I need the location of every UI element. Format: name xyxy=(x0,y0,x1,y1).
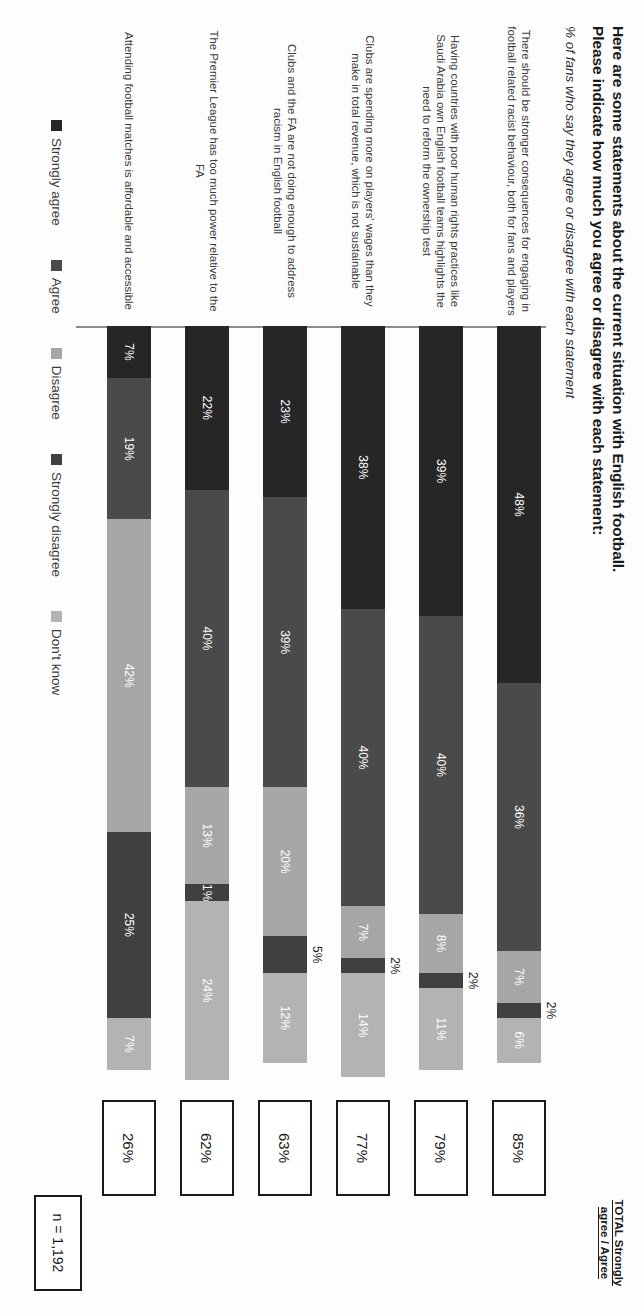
page-title-line-2: Please indicate how much you agree or di… xyxy=(588,26,608,786)
row-total-value: 77% xyxy=(355,1133,372,1163)
total-column-header-line-2: agree / Agree xyxy=(598,1207,611,1279)
row-category-label: Clubs and the FA are not doing enough to… xyxy=(258,26,312,326)
legend-item[interactable]: Agree xyxy=(49,260,64,314)
bar-segment-value: 24% xyxy=(200,979,214,1003)
legend-item[interactable]: Strongly disagree xyxy=(49,454,64,577)
bar-segment-value: 40% xyxy=(434,753,448,777)
bar-segment-value: 38% xyxy=(356,455,370,479)
bar-segment-value: 14% xyxy=(356,1013,370,1037)
row-total-box: 77% xyxy=(336,1100,390,1196)
bar-segment: 5% xyxy=(263,936,307,973)
bar-segment: 48% xyxy=(497,326,541,683)
bar-segment: 22% xyxy=(185,326,229,490)
total-column-header: TOTAL Strongly agree / Agree xyxy=(597,1195,626,1291)
bar-segment-value: 1% xyxy=(200,884,214,901)
bar-segment: 40% xyxy=(341,609,385,907)
legend-label: Strongly agree xyxy=(49,138,64,226)
legend-item[interactable]: Don't know xyxy=(49,611,64,695)
row-total-value: 62% xyxy=(199,1133,216,1163)
bar-segment-value: 12% xyxy=(278,1006,292,1030)
bar-segment: 2% xyxy=(497,1003,541,1018)
legend-item[interactable]: Disagree xyxy=(49,348,64,420)
bar-segment: 20% xyxy=(263,787,307,936)
sample-size-box: n = 1,192 xyxy=(34,1195,82,1291)
bar-segment: 2% xyxy=(419,973,463,988)
bar-segment-value: 7% xyxy=(122,343,136,360)
bar-segment-value: 19% xyxy=(122,437,136,461)
chart-row: Having countries with poor human rights … xyxy=(414,26,468,1196)
row-category-label: Attending football matches is affordable… xyxy=(102,26,156,326)
legend-swatch-icon xyxy=(51,348,62,359)
row-total-box: 63% xyxy=(258,1100,312,1196)
bar-segment: 7% xyxy=(341,906,385,958)
legend-swatch-icon xyxy=(51,260,62,271)
page-title-line-1: Here are some statements about the curre… xyxy=(608,26,628,786)
legend-label: Strongly disagree xyxy=(49,472,64,577)
bar-segment-value: 7% xyxy=(356,924,370,941)
bar-segment-value: 25% xyxy=(122,913,136,937)
bar-segment: 19% xyxy=(107,378,151,519)
chart-legend: Strongly agreeAgreeDisagreeStrongly disa… xyxy=(49,120,64,695)
legend-item[interactable]: Strongly agree xyxy=(49,120,64,226)
bar-segment: 8% xyxy=(419,914,463,974)
stacked-bar: 22%40%13%1%24% xyxy=(185,326,229,1070)
row-total-box: 62% xyxy=(180,1100,234,1196)
bar-segment-value: 2% xyxy=(388,957,402,974)
bar-segment-value: 13% xyxy=(200,824,214,848)
row-category-label: Clubs are spending more on players' wage… xyxy=(336,26,390,326)
bar-segment: 2% xyxy=(341,958,385,973)
row-total-value: 26% xyxy=(121,1133,138,1163)
bar-segment: 39% xyxy=(263,497,307,787)
bar-segment: 1% xyxy=(185,884,229,901)
legend-label: Agree xyxy=(49,278,64,314)
bar-segment-value: 42% xyxy=(122,664,136,688)
chart-slide: Here are some statements about the curre… xyxy=(0,0,642,1313)
bar-segment-value: 11% xyxy=(434,1017,448,1040)
row-total-box: 26% xyxy=(102,1100,156,1196)
bar-segment-value: 40% xyxy=(200,626,214,650)
page-title: Here are some statements about the curre… xyxy=(588,26,628,786)
legend-swatch-icon xyxy=(51,454,62,465)
bar-segment: 25% xyxy=(107,832,151,1018)
bar-segment: 11% xyxy=(419,988,463,1070)
bar-segment: 7% xyxy=(107,1018,151,1070)
stacked-bar: 39%40%8%2%11% xyxy=(419,326,463,1070)
header-block: Here are some statements about the curre… xyxy=(563,26,628,786)
bar-segment: 12% xyxy=(263,973,307,1062)
bar-segment-value: 48% xyxy=(512,493,526,517)
chart-row: Attending football matches is affordable… xyxy=(102,26,156,1196)
bar-segment-value: 8% xyxy=(434,935,448,952)
legend-swatch-icon xyxy=(51,120,62,131)
sample-size-label: n = 1,192 xyxy=(50,1214,66,1273)
bar-segment-value: 2% xyxy=(466,972,480,989)
bar-segment-value: 20% xyxy=(278,850,292,874)
bar-segment-value: 23% xyxy=(278,400,292,424)
bar-segment: 7% xyxy=(107,326,151,378)
bar-segment: 23% xyxy=(263,326,307,497)
bar-segment: 14% xyxy=(341,973,385,1077)
page-subtitle: % of fans who say they agree or disagree… xyxy=(563,26,578,786)
bar-segment: 7% xyxy=(497,951,541,1003)
chart-plot-area: There should be stronger consequences fo… xyxy=(76,26,546,1196)
chart-row: The Premier League has too much power re… xyxy=(180,26,234,1196)
bar-segment: 6% xyxy=(497,1018,541,1063)
rotated-slide-wrapper: Here are some statements about the curre… xyxy=(0,0,642,1313)
bar-segment: 36% xyxy=(497,683,541,951)
row-total-value: 85% xyxy=(511,1133,528,1163)
bar-segment-value: 40% xyxy=(356,746,370,770)
row-total-value: 79% xyxy=(433,1133,450,1163)
legend-swatch-icon xyxy=(51,611,62,622)
bar-segment: 40% xyxy=(185,490,229,788)
bar-segment: 24% xyxy=(185,901,229,1080)
row-total-value: 63% xyxy=(277,1133,294,1163)
stacked-bar: 23%39%20%5%12% xyxy=(263,326,307,1070)
legend-label: Don't know xyxy=(49,629,64,695)
bar-segment: 38% xyxy=(341,326,385,609)
legend-label: Disagree xyxy=(49,366,64,420)
stacked-bar: 48%36%7%2%6% xyxy=(497,326,541,1070)
chart-row: Clubs and the FA are not doing enough to… xyxy=(258,26,312,1196)
bar-segment-value: 6% xyxy=(512,1032,526,1049)
row-category-label: The Premier League has too much power re… xyxy=(180,26,234,326)
chart-row: There should be stronger consequences fo… xyxy=(492,26,546,1196)
bar-segment: 13% xyxy=(185,787,229,884)
